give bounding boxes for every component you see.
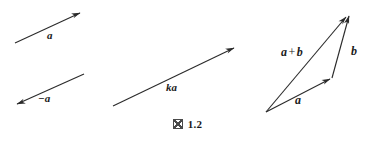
figure-1-2: a −a ka a+b b a 1.2 bbox=[0, 0, 375, 146]
label-vector-a-plus-b: a+b bbox=[281, 46, 303, 58]
label-vector-b: b bbox=[351, 45, 357, 57]
label-vector-ka: ka bbox=[166, 82, 177, 93]
vector-negative-a-line bbox=[17, 74, 84, 104]
label-sum-rhs: b bbox=[297, 45, 303, 59]
label-vector-negative-a: −a bbox=[38, 93, 50, 104]
label-sum-operator: + bbox=[287, 45, 297, 59]
label-vector-a-triangle: a bbox=[295, 94, 301, 106]
vector-ka-line bbox=[113, 48, 234, 106]
vector-a-plus-b-line bbox=[266, 17, 346, 112]
vector-b-triangle-line bbox=[332, 16, 349, 78]
figure-caption-mark-icon bbox=[173, 119, 183, 129]
figure-caption: 1.2 bbox=[0, 118, 375, 130]
figure-caption-number: 1.2 bbox=[188, 118, 203, 130]
label-vector-a: a bbox=[47, 30, 53, 41]
